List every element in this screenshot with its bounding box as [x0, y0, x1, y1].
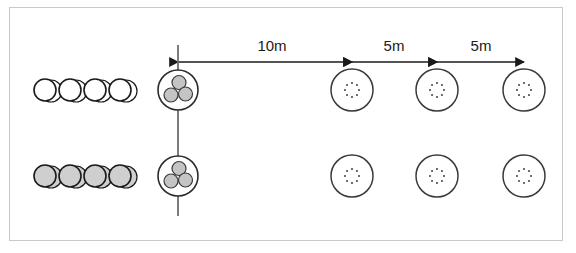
player-circle [109, 165, 131, 187]
marker-inner-dot [351, 168, 353, 170]
marker-inner-dot [441, 170, 443, 172]
marker-inner-dot [356, 84, 358, 86]
marker-inner-dot [528, 94, 530, 96]
marker-outer-circle [503, 155, 545, 197]
marker-inner-dot [441, 84, 443, 86]
marker-top-2 [416, 69, 458, 111]
training-drill-diagram: 10m5m5m [0, 0, 576, 253]
marker-outer-circle [331, 155, 373, 197]
marker-bottom-2 [416, 155, 458, 197]
cluster-top [158, 70, 198, 110]
cluster-dot [164, 88, 178, 102]
marker-outer-circle [416, 69, 458, 111]
player-circle [59, 79, 81, 101]
marker-inner-dot [358, 175, 360, 177]
marker-inner-dot [436, 82, 438, 84]
cluster-dot [164, 174, 178, 188]
marker-inner-dot [356, 180, 358, 182]
marker-inner-dot [516, 175, 518, 177]
marker-top-1 [331, 69, 373, 111]
marker-inner-dot [436, 96, 438, 98]
dimension-label-5m-1: 5m [384, 38, 405, 53]
marker-inner-dot [431, 94, 433, 96]
marker-inner-dot [344, 175, 346, 177]
marker-inner-dot [429, 175, 431, 177]
marker-inner-dot [431, 84, 433, 86]
marker-inner-dot [431, 170, 433, 172]
marker-outer-circle [503, 69, 545, 111]
player-circle [84, 79, 106, 101]
marker-inner-dot [441, 180, 443, 182]
marker-inner-dot [351, 96, 353, 98]
marker-inner-dot [443, 175, 445, 177]
marker-inner-dot [518, 84, 520, 86]
rows-group [34, 69, 545, 197]
marker-inner-dot [518, 170, 520, 172]
player-circle [34, 165, 56, 187]
marker-inner-dot [344, 89, 346, 91]
marker-inner-dot [346, 84, 348, 86]
marker-inner-dot [518, 180, 520, 182]
marker-inner-dot [528, 84, 530, 86]
marker-inner-dot [436, 182, 438, 184]
row-bottom [34, 155, 545, 197]
player-circle [84, 165, 106, 187]
marker-inner-dot [528, 180, 530, 182]
marker-inner-dot [530, 89, 532, 91]
marker-inner-dot [528, 170, 530, 172]
marker-inner-dot [436, 168, 438, 170]
marker-inner-dot [530, 175, 532, 177]
marker-bottom-3 [503, 155, 545, 197]
marker-inner-dot [356, 170, 358, 172]
marker-inner-dot [443, 89, 445, 91]
dimension-label-5m-2: 5m [471, 38, 492, 53]
marker-outer-circle [331, 69, 373, 111]
player-circle [59, 165, 81, 187]
row-top [34, 69, 545, 111]
marker-inner-dot [523, 82, 525, 84]
marker-inner-dot [351, 82, 353, 84]
player-group-top [34, 79, 137, 102]
marker-inner-dot [351, 182, 353, 184]
marker-inner-dot [346, 170, 348, 172]
marker-inner-dot [441, 94, 443, 96]
marker-inner-dot [516, 89, 518, 91]
marker-inner-dot [523, 182, 525, 184]
marker-inner-dot [356, 94, 358, 96]
marker-inner-dot [346, 180, 348, 182]
dimension-label-10m-0: 10m [257, 38, 286, 53]
marker-bottom-1 [331, 155, 373, 197]
marker-outer-circle [416, 155, 458, 197]
marker-inner-dot [358, 89, 360, 91]
marker-inner-dot [346, 94, 348, 96]
cluster-dot [179, 173, 193, 187]
player-group-bottom [34, 165, 137, 188]
cluster-dot [179, 87, 193, 101]
player-circle [109, 79, 131, 101]
marker-inner-dot [523, 168, 525, 170]
marker-inner-dot [518, 94, 520, 96]
marker-inner-dot [431, 180, 433, 182]
marker-top-3 [503, 69, 545, 111]
player-circle [34, 79, 56, 101]
marker-inner-dot [429, 89, 431, 91]
cluster-bottom [158, 156, 198, 196]
marker-inner-dot [523, 96, 525, 98]
